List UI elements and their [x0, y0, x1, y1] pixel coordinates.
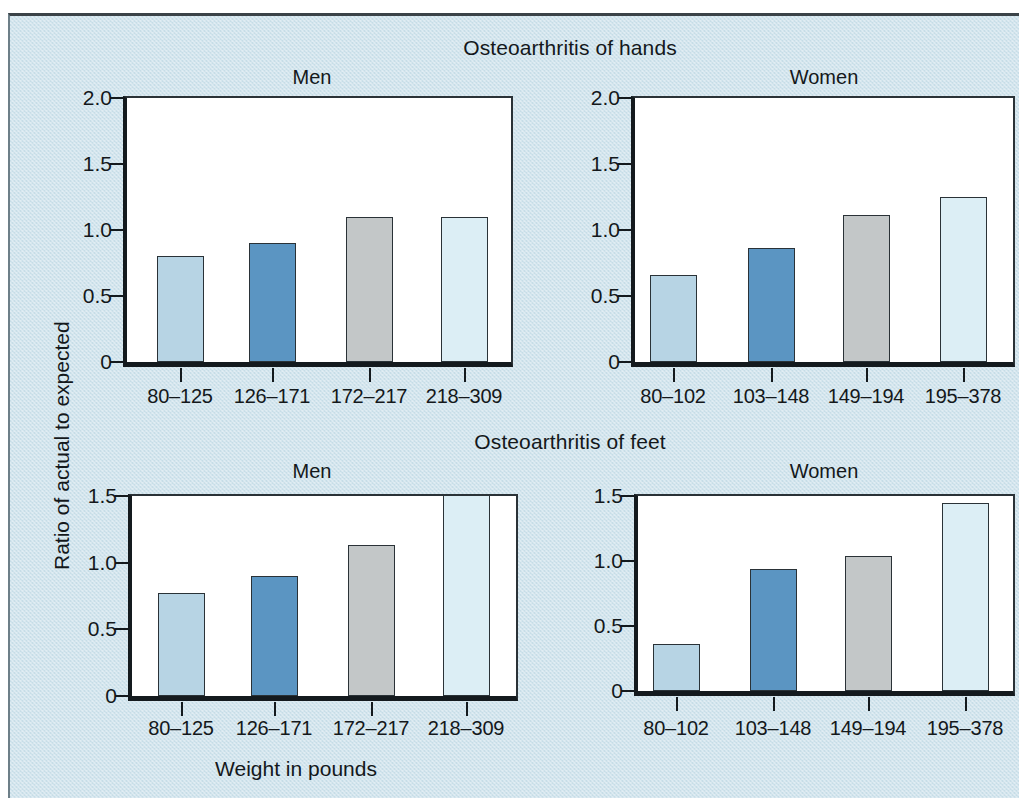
bar: [157, 256, 204, 362]
bar: [750, 569, 797, 691]
y-axis-tick-label: 0: [570, 350, 620, 374]
x-axis-tick: [866, 368, 868, 382]
x-axis-tick: [771, 368, 773, 382]
y-axis-tick-label: 0: [62, 350, 112, 374]
bar: [249, 243, 296, 362]
y-axis-tick-label: 0.5: [573, 614, 623, 638]
x-axis-tick: [181, 702, 183, 716]
x-axis-tick-label: 80–102: [643, 717, 709, 740]
x-axis-tick-label: 80–125: [147, 385, 213, 408]
x-axis-tick: [464, 368, 466, 382]
x-axis-tick-label: 149–194: [828, 385, 904, 408]
panel-title-bottom-right: Women: [790, 460, 859, 483]
x-axis-tick-label: 149–194: [830, 717, 906, 740]
bar: [251, 576, 298, 696]
x-axis-tick: [673, 368, 675, 382]
x-axis-tick-label: 126–171: [236, 717, 312, 740]
bar: [441, 217, 488, 362]
y-axis-tick-label: 0: [573, 679, 623, 703]
bar: [653, 644, 700, 691]
y-axis-tick-label: 2.0: [570, 86, 620, 110]
x-axis-tick-label: 103–148: [735, 717, 811, 740]
x-axis-tick: [180, 368, 182, 382]
x-axis-tick: [963, 368, 965, 382]
x-axis-tick-label: 172–217: [333, 717, 409, 740]
bar: [348, 545, 395, 696]
x-axis-tick-label: 172–217: [331, 385, 407, 408]
plot-area-hands-men: [123, 96, 513, 367]
y-axis-tick-label: 0: [67, 684, 117, 708]
x-axis-tick-label: 80–102: [640, 385, 706, 408]
y-axis-tick-label: 2.0: [62, 86, 112, 110]
panel-title-top-left: Men: [293, 66, 332, 89]
y-axis-tick-label: 1.0: [62, 218, 112, 242]
x-axis-tick: [272, 368, 274, 382]
y-axis-tick-label: 0.5: [570, 284, 620, 308]
bar: [845, 556, 892, 691]
plot-area-feet-women: [634, 494, 1015, 696]
y-axis-tick-label: 1.5: [67, 484, 117, 508]
y-axis-tick-label: 1.0: [573, 549, 623, 573]
x-axis-tick-label: 103–148: [733, 385, 809, 408]
section-title-feet: Osteoarthritis of feet: [474, 430, 665, 454]
y-axis-tick-label: 1.5: [573, 484, 623, 508]
y-axis-tick-label: 1.0: [67, 551, 117, 575]
y-axis-tick-label: 1.5: [570, 152, 620, 176]
x-axis-tick-label: 126–171: [234, 385, 310, 408]
bar: [748, 248, 795, 362]
bar: [942, 503, 989, 692]
x-axis-tick: [868, 697, 870, 711]
panel-title-bottom-left: Men: [293, 460, 332, 483]
plot-area-hands-women: [631, 96, 1015, 367]
bar: [443, 494, 490, 696]
bar: [650, 275, 697, 362]
section-title-hands: Osteoarthritis of hands: [463, 36, 677, 60]
y-axis-tick-label: 0.5: [62, 284, 112, 308]
x-axis-tick-label: 218–309: [428, 717, 504, 740]
x-axis-tick: [466, 702, 468, 716]
x-axis-tick: [371, 702, 373, 716]
bar: [346, 217, 393, 362]
figure-root: Osteoarthritis of hands Osteoarthritis o…: [0, 0, 1027, 806]
x-axis-title: Weight in pounds: [215, 757, 377, 781]
bar: [940, 197, 987, 362]
x-axis-tick-label: 195–378: [927, 717, 1003, 740]
x-axis-tick: [274, 702, 276, 716]
x-axis-tick: [773, 697, 775, 711]
plot-area-feet-men: [128, 494, 518, 701]
y-axis-tick-label: 1.5: [62, 152, 112, 176]
x-axis-tick: [965, 697, 967, 711]
x-axis-tick: [676, 697, 678, 711]
x-axis-tick-label: 218–309: [426, 385, 502, 408]
x-axis-tick: [369, 368, 371, 382]
y-axis-tick-label: 1.0: [570, 218, 620, 242]
x-axis-tick-label: 195–378: [925, 385, 1001, 408]
x-axis-tick-label: 80–125: [148, 717, 214, 740]
bar: [158, 593, 205, 696]
y-axis-tick-label: 0.5: [67, 617, 117, 641]
panel-title-top-right: Women: [790, 66, 859, 89]
bar: [843, 215, 890, 362]
